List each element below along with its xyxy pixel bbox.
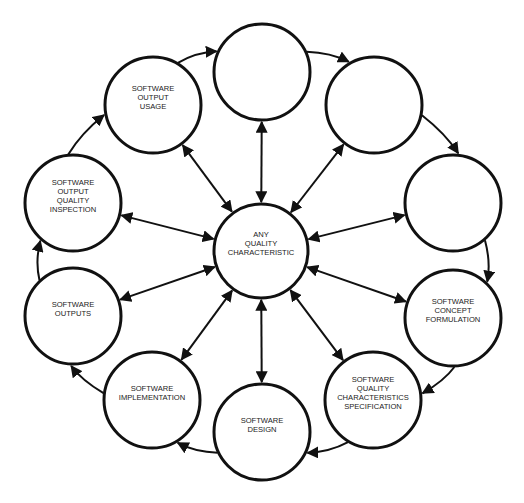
node-software-quality-characteristics-specification-label-line: QUALITY — [357, 384, 390, 393]
node-software-quality-characteristics-specification-label-line: SOFTWARE — [352, 375, 395, 384]
node-software-design-label-line: DESIGN — [247, 425, 276, 434]
cycle-arrow-software-output-usage-to-blank-top — [178, 51, 217, 63]
node-blank-top-circle — [214, 24, 310, 120]
cycle-arrow-software-quality-characteristics-specification-to-software-design — [307, 442, 348, 453]
center-node-any-quality-characteristic: ANYQUALITYCHARACTERISTIC — [214, 204, 308, 298]
node-software-design: SOFTWAREDESIGN — [214, 384, 310, 480]
cycle-arrow-software-outputs-to-software-output-quality-inspection — [37, 241, 40, 280]
node-software-output-quality-inspection-label-line: QUALITY — [57, 196, 90, 205]
node-software-quality-characteristics-specification: SOFTWAREQUALITYCHARACTERISTICSSPECIFICAT… — [325, 352, 421, 448]
node-software-quality-characteristics-specification-label-line: CHARACTERISTICS — [337, 393, 409, 402]
node-software-output-quality-inspection-label-line: OUTPUT — [57, 187, 89, 196]
center-node-any-quality-characteristic-label-line: ANY — [253, 230, 269, 239]
node-software-concept-formulation: SOFTWARECONCEPTFORMULATION — [405, 270, 501, 366]
spoke-arrow-software-quality-characteristics-specification — [290, 290, 343, 360]
node-software-implementation-label-line: IMPLEMENTATION — [119, 393, 185, 402]
nodes: SOFTWARECONCEPTFORMULATIONSOFTWAREQUALIT… — [25, 24, 501, 480]
spoke-arrow-software-concept-formulation — [307, 267, 406, 301]
center-node-any-quality-characteristic-label-line: CHARACTERISTIC — [228, 248, 295, 257]
node-software-output-quality-inspection-label-line: INSPECTION — [50, 205, 96, 214]
node-software-outputs: SOFTWAREOUTPUTS — [25, 268, 121, 364]
spoke-arrow-blank-right — [309, 215, 405, 239]
cycle-arrow-software-implementation-to-software-outputs — [71, 366, 103, 393]
node-blank-top-right — [326, 57, 422, 153]
node-software-implementation-label-line: SOFTWARE — [131, 384, 174, 393]
node-software-output-usage-label-line: OUTPUT — [137, 93, 169, 102]
node-software-output-quality-inspection: SOFTWAREOUTPUTQUALITYINSPECTION — [25, 155, 121, 251]
center-node-any-quality-characteristic-label-line: QUALITY — [245, 239, 278, 248]
node-software-outputs-label-line: OUTPUTS — [55, 309, 91, 318]
node-software-implementation: SOFTWAREIMPLEMENTATION — [104, 352, 200, 448]
spoke-arrow-blank-top-right — [291, 145, 343, 213]
node-software-output-usage-label-line: USAGE — [140, 102, 167, 111]
cycle-arrow-blank-top-to-blank-top-right — [307, 52, 349, 62]
spoke-arrow-software-outputs — [120, 267, 214, 300]
node-blank-right-circle — [405, 155, 501, 251]
node-software-output-quality-inspection-label-line: SOFTWARE — [52, 178, 95, 187]
node-software-output-usage: SOFTWAREOUTPUTUSAGE — [105, 57, 201, 153]
node-software-outputs-label-line: SOFTWARE — [52, 300, 95, 309]
spoke-arrow-software-implementation — [182, 291, 233, 360]
cycle-arrow-blank-right-to-software-concept-formulation — [485, 240, 489, 281]
spoke-arrow-software-output-usage — [183, 145, 232, 211]
spoke-arrow-software-output-quality-inspection — [121, 215, 213, 239]
cycle-arrow-software-design-to-software-implementation — [178, 443, 218, 453]
node-software-concept-formulation-label-line: FORMULATION — [426, 315, 481, 324]
cycle-arrow-software-output-quality-inspection-to-software-output-usage — [68, 115, 104, 154]
quality-cycle-diagram: SOFTWARECONCEPTFORMULATIONSOFTWAREQUALIT… — [0, 0, 524, 503]
node-software-concept-formulation-label-line: CONCEPT — [434, 306, 471, 315]
node-blank-top — [214, 24, 310, 120]
node-blank-right — [405, 155, 501, 251]
node-software-quality-characteristics-specification-label-line: SPECIFICATION — [344, 402, 402, 411]
node-blank-top-right-circle — [326, 57, 422, 153]
cycle-arrow-software-concept-formulation-to-software-quality-characteristics-specification — [423, 367, 455, 393]
node-software-concept-formulation-label-line: SOFTWARE — [432, 297, 475, 306]
node-software-output-usage-label-line: SOFTWARE — [132, 84, 175, 93]
node-software-design-label-line: SOFTWARE — [241, 416, 284, 425]
cycle-arrow-blank-top-right-to-blank-right — [422, 115, 458, 153]
